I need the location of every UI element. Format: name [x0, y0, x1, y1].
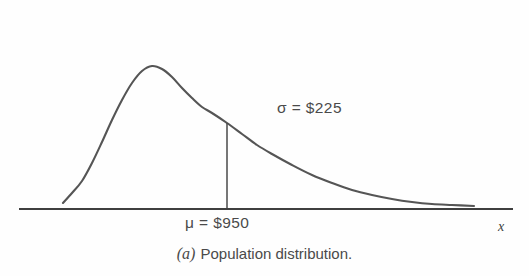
distribution-curve	[63, 66, 474, 206]
distribution-plot	[0, 0, 529, 276]
figure-caption: (a)Population distribution.	[0, 245, 529, 263]
x-axis-label: x	[498, 219, 504, 235]
sigma-annotation-label: σ = $225	[277, 99, 342, 117]
population-distribution-figure: σ = $225 μ = $950 x (a)Population distri…	[0, 0, 529, 276]
caption-index-label: (a)	[177, 245, 196, 262]
mu-annotation-label: μ = $950	[185, 214, 249, 232]
caption-text-label: Population distribution.	[200, 245, 352, 262]
